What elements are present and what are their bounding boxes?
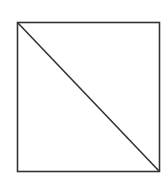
diagonal-line <box>18 23 160 172</box>
square-diagonal-diagram <box>0 0 166 179</box>
